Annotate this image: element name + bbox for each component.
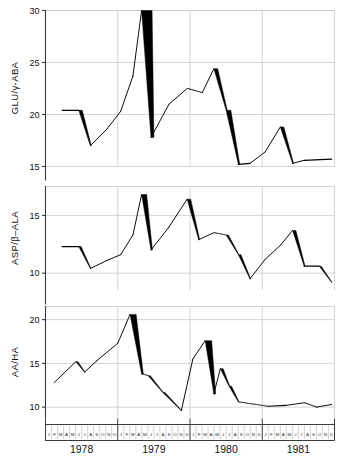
segment-rising (250, 259, 265, 279)
x-month-label: O (101, 432, 105, 437)
segment-rising (250, 152, 265, 163)
x-month-label: D (113, 432, 116, 437)
figure-root: 15202530GLU/γ-ABA1015ASP/β–ALA101520AA/H… (0, 0, 343, 467)
segment-falling (205, 341, 215, 394)
x-month-label: S (167, 432, 170, 437)
segment-falling (220, 369, 229, 387)
segment-rising (54, 362, 76, 383)
panel-1: 15202530GLU/γ-ABA (9, 6, 335, 181)
y-axis-label: AA/HA (9, 346, 20, 377)
data-series (62, 11, 331, 165)
x-month-label: M (131, 432, 135, 437)
segment-falling (250, 404, 268, 407)
x-year-label: 1978 (70, 443, 94, 455)
x-month-label: D (330, 432, 333, 437)
segment-falling (226, 110, 240, 164)
x-month-label: J (264, 432, 266, 437)
x-axis: JFMAMJJASOND1978JFMAMJJASOND1979JFMAMJJA… (45, 419, 335, 456)
segment-rising (85, 361, 97, 372)
x-month-label: A (306, 432, 309, 437)
segment-rising (97, 343, 118, 361)
segment-falling (163, 392, 182, 410)
segment-rising (107, 111, 121, 129)
segment-rising (90, 129, 107, 146)
x-month-label: F (125, 432, 128, 437)
segment-rising (169, 89, 187, 105)
segment-falling (293, 230, 305, 266)
x-month-label: M (203, 432, 207, 437)
x-month-label: A (65, 432, 68, 437)
x-month-label: J (192, 432, 194, 437)
x-month-label: J (120, 432, 122, 437)
x-month-label: A (234, 432, 237, 437)
segment-rising (304, 159, 331, 160)
x-month-label: J (150, 432, 152, 437)
segment-falling (130, 314, 143, 374)
x-month-label: N (107, 432, 110, 437)
x-month-label: N (252, 432, 255, 437)
segment-rising (265, 127, 280, 152)
y-tick-label: 10 (29, 402, 39, 412)
segment-falling (142, 195, 153, 250)
panel-3: 101520AA/HA (9, 306, 335, 419)
segment-rising (133, 195, 142, 235)
x-month-label: J (228, 432, 230, 437)
x-month-label: J (47, 432, 49, 437)
segment-falling (79, 247, 91, 269)
y-tick-label: 15 (29, 162, 39, 172)
x-month-label: O (245, 432, 249, 437)
y-tick-label: 10 (29, 268, 39, 278)
y-tick-label: 25 (29, 58, 39, 68)
segment-rising (121, 235, 133, 255)
x-month-label: M (288, 432, 292, 437)
y-tick-label: 30 (29, 6, 39, 16)
y-tick-label: 15 (29, 211, 39, 221)
x-month-label: J (78, 432, 80, 437)
x-month-label: D (185, 432, 188, 437)
segment-falling (214, 69, 227, 111)
y-tick-label: 20 (29, 110, 39, 120)
panel-2: 1015ASP/β–ALA (9, 186, 335, 305)
segment-falling (214, 233, 227, 235)
segment-rising (280, 230, 292, 245)
segment-falling (142, 11, 154, 138)
segment-rising (286, 403, 304, 406)
segment-rising (133, 11, 142, 77)
data-series (54, 314, 331, 410)
segment-falling (280, 127, 293, 163)
x-month-label: N (179, 432, 182, 437)
x-month-label: J (300, 432, 302, 437)
x-year-label: 1981 (287, 443, 311, 455)
segment-rising (268, 405, 286, 406)
x-year-label: 1980 (214, 443, 238, 455)
segment-falling (187, 199, 200, 239)
segment-rising (293, 160, 305, 163)
x-month-label: S (312, 432, 315, 437)
x-month-label: F (198, 432, 201, 437)
x-year-label: 1979 (142, 443, 166, 455)
segment-falling (319, 266, 332, 282)
x-month-label: M (143, 432, 147, 437)
x-month-label: A (210, 432, 213, 437)
y-tick-label: 15 (29, 359, 39, 369)
segment-rising (202, 69, 214, 93)
segment-falling (304, 403, 317, 407)
y-tick-label: 20 (29, 315, 39, 325)
segment-falling (226, 235, 239, 255)
x-month-label: M (59, 432, 63, 437)
x-month-label: M (71, 432, 75, 437)
x-month-label: A (161, 432, 164, 437)
x-month-label: M (275, 432, 279, 437)
segment-rising (169, 199, 187, 227)
segment-rising (181, 359, 193, 411)
y-axis-label: ASP/β–ALA (9, 211, 20, 265)
x-month-label: S (240, 432, 243, 437)
segment-falling (187, 89, 203, 93)
segment-rising (121, 76, 133, 111)
segment-rising (90, 260, 107, 268)
y-axis-label: GLU/γ-ABA (9, 61, 20, 114)
x-month-label: F (53, 432, 56, 437)
x-month-label: J (156, 432, 158, 437)
x-month-label: J (84, 432, 86, 437)
segment-rising (193, 341, 205, 359)
